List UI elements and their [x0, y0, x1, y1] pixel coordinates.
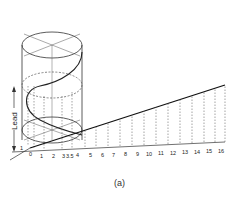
svg-text:4: 4 [76, 152, 79, 158]
developed-helix-line [30, 85, 225, 148]
svg-text:16: 16 [218, 148, 224, 154]
svg-text:3: 3 [62, 153, 65, 159]
svg-text:13: 13 [182, 149, 188, 155]
svg-text:12: 12 [170, 150, 176, 156]
svg-text:8: 8 [124, 151, 127, 157]
svg-text:1: 1 [40, 153, 43, 159]
svg-text:10: 10 [146, 151, 152, 157]
svg-text:11: 11 [158, 150, 164, 156]
svg-text:0: 0 [29, 151, 32, 157]
helix-curve [27, 52, 83, 135]
svg-text:15: 15 [206, 148, 212, 154]
lead-arrow-head-bottom [12, 146, 16, 152]
svg-text:1: 1 [20, 145, 23, 151]
svg-text:2: 2 [52, 153, 55, 159]
figure-caption: (a) [0, 178, 239, 188]
lead-arrow-head-top [12, 86, 16, 92]
svg-text:7: 7 [112, 152, 115, 158]
svg-text:9: 9 [136, 151, 139, 157]
svg-text:6: 6 [101, 152, 104, 158]
svg-text:5: 5 [89, 152, 92, 158]
svg-text:3.5: 3.5 [66, 153, 74, 159]
helix-development-diagram: Lead 0 1 2 3 3.5 4 5 6 7 8 9 10 11 12 13… [0, 0, 239, 201]
lead-label: Lead [10, 112, 19, 130]
svg-text:14: 14 [194, 149, 200, 155]
